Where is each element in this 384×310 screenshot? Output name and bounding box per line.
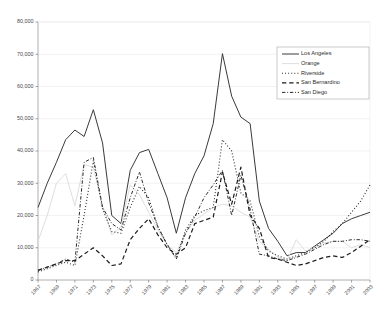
chart-legend: Los AngelesOrangeRiversideSan Bernardino… (277, 47, 369, 99)
x-tick-label: 1997 (306, 283, 318, 295)
x-tick-label: 1991 (251, 283, 263, 295)
line-chart: 010,00020,00030,00040,00050,00060,00070,… (0, 0, 384, 310)
x-axis-ticks: 1967196919711973197519771979198119831985… (29, 280, 373, 296)
x-tick-label: 2003 (361, 283, 373, 295)
y-tick-label: 20,000 (17, 212, 34, 218)
series-line-san-bernardino (38, 167, 370, 270)
y-tick-label: 70,000 (17, 51, 34, 57)
chart-canvas: 010,00020,00030,00040,00050,00060,00070,… (0, 0, 384, 310)
y-tick-label: 10,000 (17, 244, 34, 250)
legend-label-orange: Orange (301, 60, 320, 66)
x-tick-label: 1969 (48, 283, 60, 295)
x-tick-label: 1983 (177, 283, 189, 295)
x-tick-label: 1993 (269, 283, 281, 295)
x-tick-label: 1973 (85, 283, 97, 295)
x-tick-label: 1995 (288, 283, 300, 295)
y-tick-label: 30,000 (17, 180, 34, 186)
x-tick-label: 1985 (195, 283, 207, 295)
x-tick-label: 1977 (122, 283, 134, 295)
legend-label-san-diego: San Diego (301, 89, 327, 95)
x-tick-label: 1975 (103, 283, 115, 295)
y-tick-label: 50,000 (17, 115, 34, 121)
y-tick-label: 60,000 (17, 83, 34, 89)
x-tick-label: 1989 (232, 283, 244, 295)
x-tick-label: 1967 (29, 283, 41, 295)
x-tick-label: 2001 (343, 283, 355, 295)
x-tick-label: 1981 (159, 283, 171, 295)
x-tick-label: 1999 (325, 283, 337, 295)
x-tick-label: 1979 (140, 283, 152, 295)
y-tick-label: 0 (31, 276, 34, 282)
y-tick-label: 40,000 (17, 147, 34, 153)
x-tick-label: 1971 (66, 283, 78, 295)
legend-label-riverside: Riverside (301, 70, 324, 76)
y-axis-ticks: 010,00020,00030,00040,00050,00060,00070,… (17, 18, 38, 282)
x-tick-label: 1987 (214, 283, 226, 295)
legend-label-san-bernardino: San Bernardino (301, 79, 340, 85)
legend-label-los-angeles: Los Angeles (301, 50, 332, 56)
y-tick-label: 80,000 (17, 18, 34, 24)
